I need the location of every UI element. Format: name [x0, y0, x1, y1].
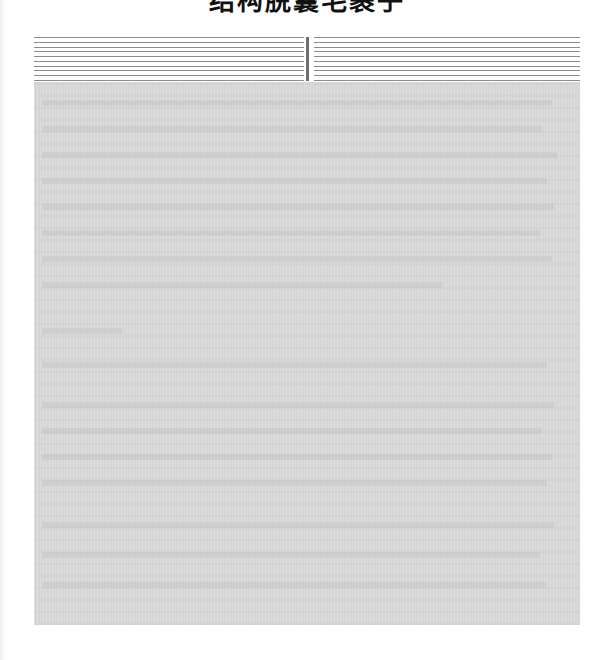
horizontal-rule — [34, 70, 304, 71]
horizontal-rule — [34, 37, 304, 38]
ruled-lines-block — [34, 37, 580, 81]
obscured-text-line — [42, 282, 442, 288]
obscured-text-line — [42, 256, 552, 262]
horizontal-rule — [34, 56, 304, 57]
horizontal-rule — [314, 37, 580, 38]
horizontal-rule — [314, 47, 580, 48]
horizontal-rule — [314, 42, 580, 43]
horizontal-rule — [314, 70, 580, 71]
horizontal-rule — [314, 75, 580, 76]
horizontal-rule — [314, 56, 580, 57]
obscured-text-line — [42, 204, 554, 210]
scan-left-margin — [0, 0, 6, 660]
obscured-text-line — [42, 152, 557, 158]
horizontal-rule — [314, 66, 580, 67]
obscured-text-line — [42, 522, 554, 528]
horizontal-rule — [34, 51, 304, 52]
obscured-text-line — [42, 126, 542, 132]
horizontal-rule — [34, 66, 304, 67]
obscured-text-line — [42, 178, 547, 184]
obscured-text-line — [42, 428, 542, 434]
obscured-text-line — [42, 552, 540, 558]
horizontal-rule — [34, 47, 304, 48]
horizontal-rule — [34, 75, 304, 76]
horizontal-rule — [34, 80, 304, 81]
right-rule-column — [314, 37, 580, 81]
obscured-text-line — [42, 100, 552, 106]
horizontal-rule — [34, 42, 304, 43]
obscured-text-line — [42, 230, 540, 236]
column-divider — [306, 37, 309, 81]
obscured-text-line — [42, 328, 122, 334]
horizontal-rule — [314, 61, 580, 62]
horizontal-rule — [34, 61, 304, 62]
obscured-text-line — [42, 454, 552, 460]
obscured-text-line — [42, 480, 547, 486]
horizontal-rule — [314, 51, 580, 52]
obscured-text-line — [42, 402, 554, 408]
obscured-text-line — [42, 362, 547, 368]
document-title: 结构脱囊毛裹子 — [0, 0, 613, 16]
obscured-content-region — [34, 82, 580, 625]
horizontal-rule — [314, 80, 580, 81]
left-rule-column — [34, 37, 304, 81]
obscured-text-line — [42, 582, 547, 588]
